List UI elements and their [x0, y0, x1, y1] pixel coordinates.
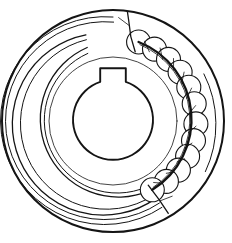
- bearing-drawing-canvas: [0, 0, 232, 243]
- ball-bearing-diagram: [0, 0, 232, 243]
